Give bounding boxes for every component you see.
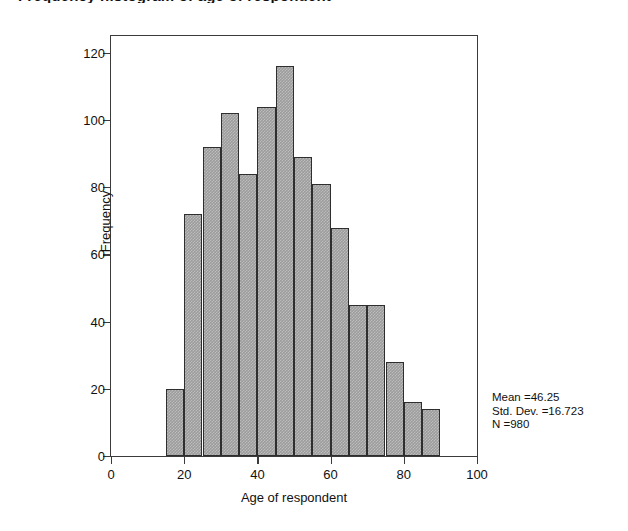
stat-n: N =980 xyxy=(492,418,584,432)
statistics-annotation: Mean =46.25 Std. Dev. =16.723 N =980 xyxy=(492,391,584,432)
x-tick xyxy=(331,456,332,464)
histogram-bar xyxy=(166,389,184,456)
histogram-bars xyxy=(111,36,477,456)
histogram-bar xyxy=(312,184,330,456)
plot-frame: Frequency 020406080100120 020406080100 A… xyxy=(110,35,478,457)
stat-std-dev: Std. Dev. =16.723 xyxy=(492,405,584,419)
y-tick-label: 40 xyxy=(91,314,105,329)
y-tick-label: 100 xyxy=(83,113,105,128)
histogram-bar xyxy=(257,107,275,456)
histogram-bar xyxy=(331,228,349,456)
x-tick xyxy=(257,456,258,464)
x-tick xyxy=(184,456,185,464)
histogram-bar xyxy=(294,157,312,456)
histogram-bar xyxy=(239,174,257,456)
histogram-bar xyxy=(184,214,202,456)
histogram-bar xyxy=(422,409,440,456)
stat-mean: Mean =46.25 xyxy=(492,391,584,405)
y-tick-label: 120 xyxy=(83,45,105,60)
chart-title-clipped: Frequency histogram of age of respondent xyxy=(18,0,478,3)
x-tick xyxy=(111,456,112,464)
chart-title-text: Frequency histogram of age of respondent xyxy=(18,0,478,3)
histogram-bar xyxy=(349,305,367,456)
y-tick-label: 20 xyxy=(91,381,105,396)
x-tick-label: 20 xyxy=(177,467,191,482)
chart-canvas: Frequency histogram of age of respondent… xyxy=(0,0,628,531)
histogram-bar xyxy=(221,113,239,456)
x-tick-label: 100 xyxy=(466,467,488,482)
histogram-bar xyxy=(404,402,422,456)
x-tick-label: 0 xyxy=(107,467,114,482)
histogram-bar xyxy=(386,362,404,456)
x-tick xyxy=(404,456,405,464)
y-tick-label: 80 xyxy=(91,180,105,195)
x-tick xyxy=(477,456,478,464)
x-tick-label: 60 xyxy=(323,467,337,482)
x-tick-label: 80 xyxy=(397,467,411,482)
x-tick-label: 40 xyxy=(250,467,264,482)
histogram-bar xyxy=(276,66,294,456)
y-tick-label: 0 xyxy=(98,449,105,464)
y-tick-label: 60 xyxy=(91,247,105,262)
histogram-bar xyxy=(203,147,221,456)
histogram-bar xyxy=(367,305,385,456)
x-axis-label: Age of respondent xyxy=(111,490,477,505)
